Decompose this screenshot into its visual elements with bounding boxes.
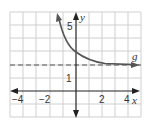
x-axis xyxy=(10,88,140,94)
graph: −4 −2 2 4 x 5 1 y g xyxy=(0,0,147,126)
x-tick-neg2: −2 xyxy=(39,94,51,105)
y-axis-label: y xyxy=(79,11,85,23)
x-tick-4: 4 xyxy=(124,94,130,105)
curve-g-up-arrow-icon xyxy=(56,13,62,22)
y-axis-up-arrow-icon xyxy=(73,12,79,20)
x-tick-neg4: −4 xyxy=(12,94,24,105)
y-tick-5: 5 xyxy=(67,21,73,32)
y-tick-1: 1 xyxy=(66,73,72,84)
curve-g-label: g xyxy=(132,50,138,62)
x-tick-2: 2 xyxy=(99,94,105,105)
x-axis-label: x xyxy=(131,94,137,106)
curve-g-right-arrow-icon xyxy=(131,62,140,68)
